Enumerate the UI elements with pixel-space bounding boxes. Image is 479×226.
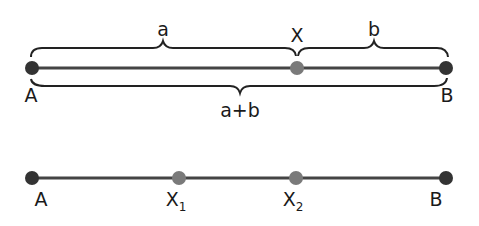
label-point-b-top: B xyxy=(440,84,453,106)
point-b-top xyxy=(439,61,453,75)
label-a: a xyxy=(157,18,169,40)
label-x2-subscript: 2 xyxy=(296,200,304,214)
brace-a xyxy=(31,41,296,57)
label-point-a-top: A xyxy=(25,84,38,106)
label-b: b xyxy=(368,18,380,40)
point-a-top xyxy=(25,61,39,75)
label-point-x2-bottom: X2 xyxy=(283,188,304,214)
brace-b xyxy=(298,41,448,57)
point-a-bottom xyxy=(25,171,39,185)
label-point-a-bottom: A xyxy=(35,188,48,210)
label-x1-subscript: 1 xyxy=(179,200,187,214)
label-x2-main: X xyxy=(283,188,296,210)
point-b-bottom xyxy=(439,171,453,185)
point-x-top xyxy=(290,61,304,75)
label-x1-main: X xyxy=(166,188,179,210)
label-point-x1-bottom: X1 xyxy=(166,188,187,214)
top-figure: a b a+b A X B xyxy=(25,18,454,121)
label-point-b-bottom: B xyxy=(429,188,442,210)
point-x2-bottom xyxy=(289,171,303,185)
point-x1-bottom xyxy=(172,171,186,185)
brace-a-plus-b xyxy=(31,78,447,93)
label-a-plus-b: a+b xyxy=(220,99,260,121)
segment-diagram: a b a+b A X B A X1 X2 B xyxy=(0,0,479,226)
bottom-figure: A X1 X2 B xyxy=(25,171,453,214)
label-point-x-top: X xyxy=(290,24,303,46)
